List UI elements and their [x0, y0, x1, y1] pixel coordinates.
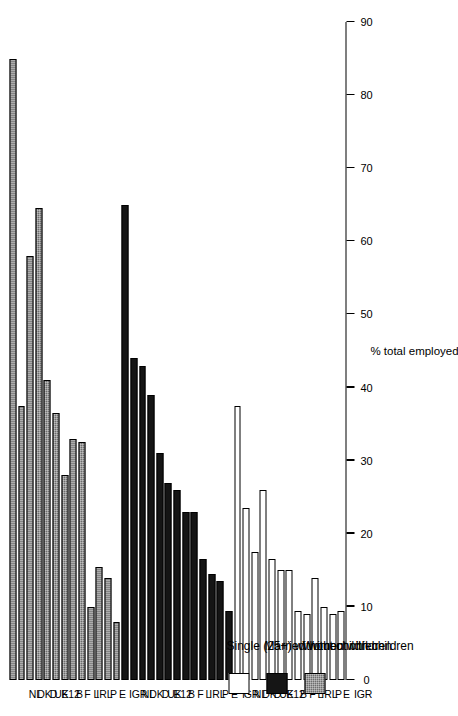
- axis-tick: [346, 532, 354, 533]
- category-label: L: [205, 688, 211, 700]
- axis-tick-label: 70: [360, 162, 372, 174]
- bar: [277, 570, 284, 680]
- bar: [242, 508, 249, 680]
- category-label: NL: [29, 688, 42, 700]
- bar: [18, 406, 25, 680]
- bar: [182, 512, 189, 680]
- axis-tick: [346, 606, 354, 607]
- bar: [113, 622, 120, 680]
- axis-tick: [346, 313, 354, 314]
- axis-tick-label: 0: [363, 674, 369, 686]
- bar: [173, 490, 180, 680]
- category-label: E: [343, 688, 350, 700]
- category-label: I: [129, 688, 132, 700]
- bar: [35, 208, 42, 680]
- axis-tick-label: 80: [360, 89, 372, 101]
- axis-tick-label: 50: [360, 308, 372, 320]
- bar: [104, 578, 111, 680]
- legend-swatch-women: [304, 673, 325, 694]
- bar: [268, 559, 275, 680]
- bars-container: [8, 22, 345, 680]
- axis-tick-label: 20: [360, 528, 372, 540]
- axis-tick: [346, 240, 354, 241]
- category-label: GR: [356, 688, 372, 700]
- axis-tick-label: 30: [360, 455, 372, 467]
- value-axis-title: % total employed: [370, 345, 458, 357]
- bar: [190, 512, 197, 680]
- bar: [285, 570, 292, 680]
- category-label: E: [118, 688, 125, 700]
- bar: [147, 395, 154, 680]
- plot-area: 0102030405060708090 % total employed GRI…: [8, 22, 368, 680]
- category-label: GR: [131, 688, 147, 700]
- bar: [9, 59, 16, 680]
- category-label: I: [354, 688, 357, 700]
- bar: [95, 567, 102, 680]
- bar: [130, 358, 137, 680]
- axis-tick-label: 90: [360, 16, 372, 28]
- bar: [121, 205, 128, 680]
- category-label: F: [84, 688, 90, 700]
- bar: [311, 578, 318, 680]
- legend-label-women: Women with children: [302, 639, 413, 653]
- axis-tick: [346, 386, 354, 387]
- legend-swatch-married: [266, 673, 287, 694]
- axis-tick: [346, 679, 354, 680]
- axis-tick-label: 10: [360, 601, 372, 613]
- axis-tick: [346, 167, 354, 168]
- category-label: F: [196, 688, 202, 700]
- bar: [216, 581, 223, 680]
- bar: [139, 366, 146, 680]
- bar: [78, 442, 85, 680]
- axis-tick-label: 40: [360, 382, 372, 394]
- axis-tick: [346, 21, 354, 22]
- bar: [87, 607, 94, 680]
- axis-tick: [346, 94, 354, 95]
- bar: [43, 380, 50, 680]
- bar: [52, 413, 59, 680]
- bar: [61, 475, 68, 680]
- axis-tick-label: 60: [360, 235, 372, 247]
- category-label: L: [93, 688, 99, 700]
- bar: [156, 453, 163, 680]
- bar: [251, 552, 258, 680]
- bar: [164, 483, 171, 680]
- bar: [208, 574, 215, 680]
- legend-swatch-single: [228, 673, 249, 694]
- axis-tick: [346, 459, 354, 460]
- bar: [26, 256, 33, 680]
- bar: [199, 559, 206, 680]
- bar: [69, 439, 76, 680]
